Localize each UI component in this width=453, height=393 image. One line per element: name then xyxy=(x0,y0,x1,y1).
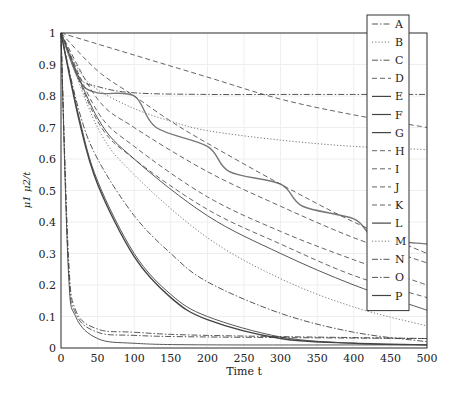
y-tick: 0.3 xyxy=(39,248,57,261)
y-tick: 1 xyxy=(49,27,56,40)
x-tick: 350 xyxy=(307,352,328,365)
y-tick-labels: 00.10.20.30.40.50.60.70.80.91 xyxy=(39,27,57,355)
x-tick-labels: 050100150200250300350400450500 xyxy=(58,352,438,365)
legend-label: A xyxy=(394,18,404,31)
x-tick: 0 xyxy=(58,352,65,365)
x-tick: 500 xyxy=(417,352,438,365)
legend-label: I xyxy=(395,163,399,176)
legend-label: L xyxy=(395,217,403,230)
legend-label: M xyxy=(395,235,406,248)
x-tick: 50 xyxy=(91,352,105,365)
legend-label: D xyxy=(395,72,404,85)
legend-label: F xyxy=(395,109,403,122)
x-tick: 300 xyxy=(270,352,291,365)
x-tick: 400 xyxy=(343,352,364,365)
legend-label: H xyxy=(395,145,405,158)
y-tick: 0.9 xyxy=(39,59,57,72)
legend-label: J xyxy=(394,181,399,194)
legend-label: K xyxy=(395,199,404,212)
x-tick: 250 xyxy=(234,352,255,365)
y-tick: 0.8 xyxy=(39,90,57,103)
legend-label: C xyxy=(395,54,403,67)
legend-label: N xyxy=(395,253,405,266)
x-tick: 150 xyxy=(160,352,181,365)
legend-label: B xyxy=(395,36,403,49)
x-tick: 100 xyxy=(124,352,145,365)
legend-label: G xyxy=(395,127,404,140)
y-tick: 0.2 xyxy=(39,279,57,292)
legend-label: E xyxy=(395,90,403,103)
y-tick: 0.6 xyxy=(39,153,57,166)
y-tick: 0.7 xyxy=(39,122,57,135)
legend-label: P xyxy=(395,290,403,303)
x-tick: 200 xyxy=(197,352,218,365)
legend-label: O xyxy=(395,271,404,284)
y-tick: 0.4 xyxy=(39,216,57,229)
x-axis-label: Time t xyxy=(226,365,262,378)
y-tick: 0.1 xyxy=(39,311,57,324)
line-chart: 050100150200250300350400450500 00.10.20.… xyxy=(0,0,453,393)
x-tick: 450 xyxy=(380,352,401,365)
y-tick: 0 xyxy=(49,342,56,355)
y-tick: 0.5 xyxy=(39,185,57,198)
y-axis-label: μ1 μ2/t xyxy=(21,171,32,208)
legend: ABCDEFGHIJKLMNOP xyxy=(367,15,409,311)
